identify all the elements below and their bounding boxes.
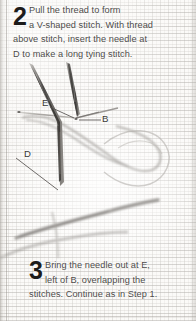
label-D: D [24,148,31,159]
step-2-line-1: Pull the thread to form [13,3,189,18]
step-3-line-3: stitches. Continue as in Step 1. [29,287,191,302]
step-3-body: Bring the needle out at E, left of B, ov… [29,258,191,302]
step-2-line-3: above stitch, insert the needle at [13,32,189,47]
step-2-instruction: 2 Pull the thread to form a V-shaped sti… [13,3,189,61]
label-B: B [102,113,108,124]
label-E: E [42,97,48,108]
step-2-number: 2 [13,4,27,29]
step-2-body: Pull the thread to form a V-shaped stitc… [13,3,189,61]
step-2-line-4: D to make a long tying stitch. [13,47,189,62]
step-3-number: 3 [29,258,43,283]
step-3-line-1: Bring the needle out at E, [29,258,191,273]
step-3-line-2: left of B, overlapping the [29,273,191,288]
step-2-line-2: a V-shaped stitch. With thread [13,18,189,33]
instruction-page: 2 Pull the thread to form a V-shaped sti… [0,0,196,321]
step-3-instruction: 3 Bring the needle out at E, left of B, … [29,258,191,302]
